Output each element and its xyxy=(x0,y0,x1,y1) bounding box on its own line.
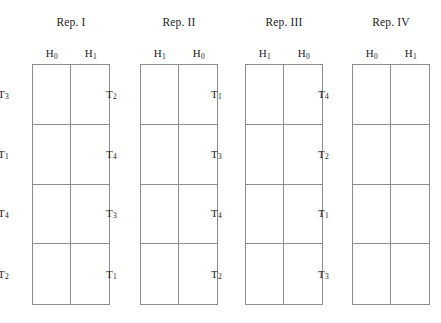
plot-row: T2 xyxy=(141,65,217,125)
column-header-subscript: 1 xyxy=(162,52,166,61)
plot-cell xyxy=(284,185,322,244)
column-header-row: H0H1 xyxy=(352,46,430,61)
treatment-row-label: T3 xyxy=(0,65,28,124)
plot-cell xyxy=(246,125,284,184)
treatment-row-label: T1 xyxy=(0,125,28,184)
treatment-label-letter: T xyxy=(318,268,325,281)
plot-row: T4 xyxy=(353,65,429,125)
plot-row: T2 xyxy=(33,244,109,304)
treatment-label-letter: T xyxy=(0,207,5,220)
plot-row: T3 xyxy=(33,65,109,125)
plot-cell xyxy=(141,125,179,184)
treatment-label-subscript: 3 xyxy=(5,90,9,103)
treatment-label-subscript: 2 xyxy=(325,150,329,163)
treatment-row-label: T3 xyxy=(318,244,348,304)
column-header-label: H0 xyxy=(352,46,391,61)
plot-grid: T3T1T4T2 xyxy=(32,64,110,305)
plot-row: T2 xyxy=(246,244,322,304)
plot-cell xyxy=(284,65,322,124)
plot-cell xyxy=(246,244,284,304)
column-header-label: H0 xyxy=(32,46,71,61)
column-header-letter: H xyxy=(405,47,413,59)
treatment-label-subscript: 2 xyxy=(5,270,9,283)
treatment-label-subscript: 4 xyxy=(218,209,222,222)
plot-cell xyxy=(71,125,109,184)
column-header-label: H1 xyxy=(245,46,284,61)
plot-cell xyxy=(33,125,71,184)
plot-grid: T4T2T1T3 xyxy=(352,64,430,305)
treatment-row-label: T1 xyxy=(211,65,241,124)
treatment-row-label: T2 xyxy=(106,65,136,124)
plot-cell xyxy=(284,244,322,304)
column-header-letter: H xyxy=(259,47,267,59)
replicate-block: Rep. IVH0H1T4T2T1T3 xyxy=(320,0,441,323)
column-header-letter: H xyxy=(298,47,306,59)
treatment-row-label: T2 xyxy=(318,125,348,184)
treatment-label-letter: T xyxy=(106,148,113,161)
plot-cell xyxy=(353,185,391,244)
plot-row: T1 xyxy=(141,244,217,304)
replicate-title: Rep. IV xyxy=(320,16,441,29)
treatment-label-letter: T xyxy=(0,148,5,161)
plot-grid: T2T4T3T1 xyxy=(140,64,218,305)
treatment-label-subscript: 3 xyxy=(218,150,222,163)
plot-cell xyxy=(391,244,429,304)
plot-cell xyxy=(141,185,179,244)
treatment-label-subscript: 3 xyxy=(325,270,329,283)
column-header-subscript: 0 xyxy=(374,52,378,61)
column-header-subscript: 0 xyxy=(306,52,310,61)
treatment-label-letter: T xyxy=(211,88,218,101)
column-header-subscript: 1 xyxy=(413,52,417,61)
treatment-row-label: T4 xyxy=(106,125,136,184)
treatment-label-subscript: 1 xyxy=(325,209,329,222)
treatment-row-label: T4 xyxy=(318,65,348,124)
plot-cell xyxy=(33,65,71,124)
plot-row: T3 xyxy=(246,125,322,185)
plot-cell xyxy=(284,125,322,184)
plot-grid: T1T3T4T2 xyxy=(245,64,323,305)
treatment-row-label: T2 xyxy=(211,244,241,304)
column-header-letter: H xyxy=(85,47,93,59)
treatment-row-label: T1 xyxy=(318,185,348,244)
plot-row: T4 xyxy=(33,185,109,245)
treatment-label-subscript: 2 xyxy=(218,270,222,283)
column-header-subscript: 1 xyxy=(267,52,271,61)
column-header-letter: H xyxy=(366,47,374,59)
column-header-row: H0H1 xyxy=(32,46,110,61)
plot-row: T1 xyxy=(33,125,109,185)
treatment-label-subscript: 1 xyxy=(113,270,117,283)
treatment-label-subscript: 4 xyxy=(5,209,9,222)
plot-cell xyxy=(71,65,109,124)
treatment-label-subscript: 1 xyxy=(5,150,9,163)
treatment-row-label: T4 xyxy=(211,185,241,244)
column-header-subscript: 0 xyxy=(201,52,205,61)
treatment-row-label: T3 xyxy=(106,185,136,244)
plot-cell xyxy=(353,65,391,124)
plot-cell xyxy=(141,65,179,124)
treatment-label-letter: T xyxy=(211,148,218,161)
plot-cell xyxy=(71,185,109,244)
column-header-letter: H xyxy=(154,47,162,59)
design-layout-figure: Rep. IH0H1T3T1T4T2Rep. IIH1H0T2T4T3T1Rep… xyxy=(0,0,441,323)
treatment-row-label: T2 xyxy=(0,244,28,304)
treatment-label-letter: T xyxy=(211,268,218,281)
column-header-label: H1 xyxy=(71,46,110,61)
treatment-row-label: T1 xyxy=(106,244,136,304)
treatment-label-subscript: 4 xyxy=(325,90,329,103)
plot-row: T4 xyxy=(246,185,322,245)
plot-cell xyxy=(353,125,391,184)
treatment-row-label: T3 xyxy=(211,125,241,184)
column-header-letter: H xyxy=(46,47,54,59)
plot-cell xyxy=(391,185,429,244)
plot-row: T2 xyxy=(353,125,429,185)
plot-cell xyxy=(33,244,71,304)
treatment-label-letter: T xyxy=(318,88,325,101)
treatment-label-letter: T xyxy=(0,268,5,281)
treatment-label-letter: T xyxy=(0,88,5,101)
treatment-label-subscript: 1 xyxy=(218,90,222,103)
plot-cell xyxy=(246,185,284,244)
plot-cell xyxy=(71,244,109,304)
treatment-label-letter: T xyxy=(318,207,325,220)
column-header-row: H1H0 xyxy=(140,46,218,61)
plot-row: T3 xyxy=(141,185,217,245)
